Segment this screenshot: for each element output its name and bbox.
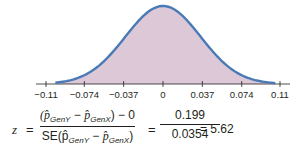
x-tick-label: 0.11 — [271, 89, 289, 100]
main-numerator: (p̂GenY − p̂GenX) − 0 — [40, 108, 135, 124]
fraction-bar — [40, 126, 135, 127]
x-tick-label: 0 — [160, 89, 165, 100]
equals-sign: = — [26, 122, 34, 137]
x-tick-label: −0.037 — [109, 89, 138, 100]
main-fraction: (p̂GenY − p̂GenX) − 0 SE(p̂GenY − p̂GenX… — [40, 108, 135, 146]
x-tick-label: −0.11 — [34, 89, 57, 100]
z-symbol: z — [12, 122, 17, 138]
equals-sign-2: = — [148, 122, 156, 137]
x-tick-label: 0.074 — [230, 89, 254, 100]
x-tick-label: 0.037 — [190, 89, 214, 100]
z-statistic-formula: z = (p̂GenY − p̂GenX) − 0 SE(p̂GenY − p̂… — [0, 108, 302, 153]
x-tick-label: −0.074 — [70, 89, 99, 100]
value-numerator: 0.199 — [160, 108, 220, 122]
z-result: = 5.62 — [200, 122, 234, 136]
main-denominator: SE(p̂GenY − p̂GenX) — [40, 129, 135, 145]
normal-curve-chart: −0.11−0.074−0.03700.0370.0740.11 — [0, 0, 302, 100]
